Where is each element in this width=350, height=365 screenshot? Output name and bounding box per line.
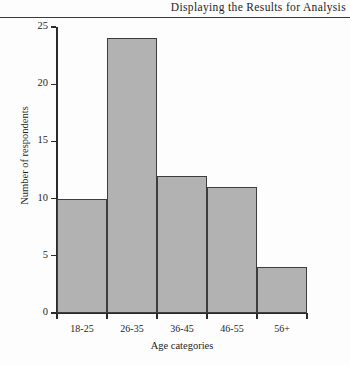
y-tick-label: 5: [43, 249, 48, 260]
y-tick: [51, 255, 56, 256]
x-tick: [56, 313, 57, 319]
x-tick-label: 26-35: [107, 323, 157, 334]
bar: [207, 187, 257, 313]
bar-chart-figure: 0510152025 18-2526-3536-4546-5556+ Age c…: [0, 20, 350, 365]
bar: [57, 199, 107, 313]
y-tick: [51, 141, 56, 142]
x-tick: [306, 313, 307, 319]
running-header: Displaying the Results for Analysis: [0, 0, 350, 20]
y-tick-label: 0: [43, 306, 48, 317]
y-tick: [51, 312, 56, 313]
bar: [257, 267, 307, 313]
page-title: Displaying the Results for Analysis: [171, 1, 346, 13]
bar: [107, 38, 157, 313]
y-tick-label: 10: [38, 192, 49, 203]
x-tick-label: 36-45: [157, 323, 207, 334]
y-axis-title: Number of respondents: [19, 76, 30, 236]
x-tick: [156, 313, 157, 319]
x-tick: [206, 313, 207, 319]
y-tick-label: 20: [38, 77, 49, 88]
y-tick: [51, 84, 56, 85]
x-tick: [106, 313, 107, 319]
x-tick-label: 18-25: [57, 323, 107, 334]
x-tick: [256, 313, 257, 319]
y-tick-label: 25: [38, 20, 49, 31]
x-tick-label: 46-55: [207, 323, 257, 334]
y-tick: [51, 198, 56, 199]
y-tick-label: 15: [38, 134, 49, 145]
y-tick: [51, 26, 56, 27]
bar: [157, 176, 207, 313]
x-tick-label: 56+: [257, 323, 307, 334]
header-divider: [0, 17, 350, 18]
x-axis-title: Age categories: [57, 340, 307, 351]
